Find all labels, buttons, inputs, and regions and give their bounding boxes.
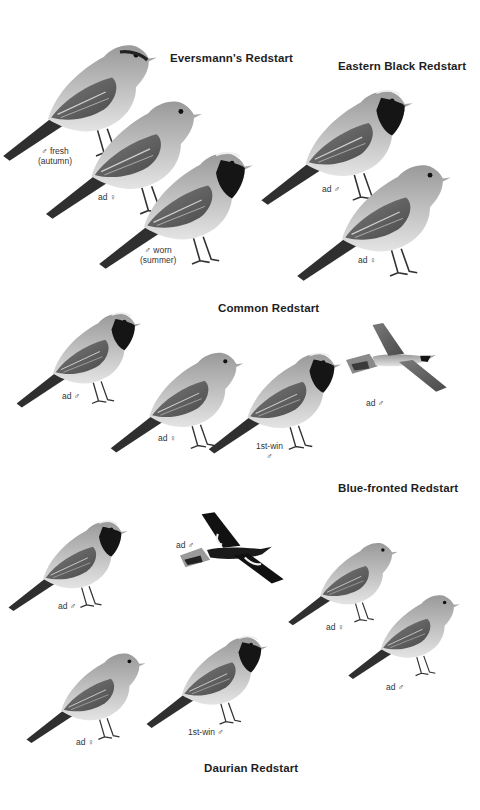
- figure-label: ad ♂: [176, 540, 194, 550]
- figure-label: ad ♀: [158, 433, 176, 443]
- figure-label: ad ♂: [386, 682, 404, 692]
- bird-blue-fronted-male: [346, 550, 462, 720]
- figure-label: ad ♀: [76, 737, 94, 747]
- species-title-common-redstart: Common Redstart: [218, 302, 319, 314]
- figure-label: ad ♂: [366, 398, 384, 408]
- figure-label: ad ♂: [58, 601, 76, 611]
- figure-label: 1st-win ♂: [256, 441, 283, 461]
- figure-label: 1st-win ♂: [188, 727, 224, 737]
- figure-label: ♂ worn (summer): [140, 245, 176, 265]
- species-title-eversmanns-redstart: Eversmann's Redstart: [170, 52, 293, 64]
- species-title-eastern-black-redstart: Eastern Black Redstart: [338, 60, 466, 72]
- field-guide-plate: Eversmann's Redstart ♂ fresh (autumn) ad…: [0, 0, 480, 810]
- bird-common-male-flight: [346, 310, 452, 410]
- bird-daurian-male: [6, 494, 130, 634]
- species-title-daurian-redstart: Daurian Redstart: [204, 762, 298, 774]
- figure-label: ad ♀: [358, 255, 376, 265]
- figure-label: ad ♀: [326, 622, 344, 632]
- figure-label: ad ♂: [62, 391, 80, 401]
- bird-daurian-male-flight: [180, 500, 288, 600]
- species-title-blue-fronted-redstart: Blue-fronted Redstart: [338, 482, 458, 494]
